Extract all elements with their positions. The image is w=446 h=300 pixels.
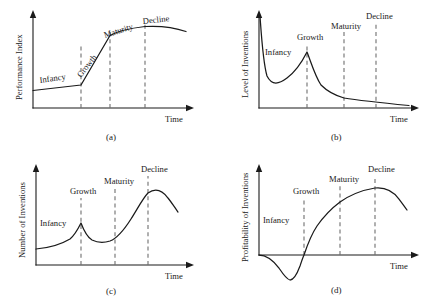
- stage-label-infancy-c: Infancy: [40, 218, 67, 228]
- x-axis-arrow-c: [186, 262, 194, 268]
- stage-label-maturity-a: Maturity: [103, 21, 135, 40]
- x-axis-label-d: Time: [390, 261, 408, 271]
- y-axis-label-b: Level of Inventions: [240, 30, 250, 98]
- panel-b: Level of Inventions Time Infancy Growth …: [223, 0, 446, 150]
- panel-a: Performance Index Time Infancy Growth Ma…: [0, 0, 223, 150]
- stage-label-decline-c: Decline: [141, 164, 168, 174]
- stage-label-decline-a: Decline: [142, 13, 170, 26]
- stage-label-infancy-b: Infancy: [265, 47, 292, 57]
- x-axis-arrow-a: [186, 105, 194, 111]
- stage-label-decline-d: Decline: [368, 164, 395, 174]
- figure-grid: Performance Index Time Infancy Growth Ma…: [0, 0, 446, 300]
- stage-label-maturity-c: Maturity: [104, 176, 135, 186]
- stage-label-growth-d: Growth: [293, 186, 320, 196]
- panel-caption-c: (c): [106, 286, 116, 296]
- y-axis-arrow-b: [256, 10, 262, 18]
- x-axis-label-c: Time: [165, 271, 183, 281]
- x-axis-label-a: Time: [165, 114, 183, 124]
- panel-caption-d: (d): [331, 285, 342, 295]
- panel-caption-b: (b): [331, 132, 342, 142]
- y-axis-label-a: Performance Index: [14, 34, 24, 100]
- y-axis-label-c: Number of Inventions: [17, 181, 27, 258]
- panel-c: Number of Inventions Time Infancy Growth…: [0, 150, 223, 300]
- x-axis-arrow-b: [411, 105, 419, 111]
- y-axis-label-d: Profitability of Inventions: [240, 172, 250, 262]
- stage-label-maturity-b: Maturity: [331, 21, 362, 31]
- profitability-curve-d: [259, 188, 407, 280]
- stage-label-growth-c: Growth: [70, 186, 97, 196]
- stage-label-growth-b: Growth: [297, 32, 324, 42]
- stage-label-infancy-d: Infancy: [263, 215, 290, 225]
- panel-caption-a: (a): [106, 132, 116, 142]
- y-axis-arrow-c: [33, 164, 39, 172]
- stage-label-infancy-a: Infancy: [39, 71, 67, 85]
- stage-label-maturity-d: Maturity: [329, 174, 360, 184]
- x-axis-arrow-d: [411, 252, 419, 258]
- y-axis-arrow-d: [256, 164, 262, 172]
- stage-label-decline-b: Decline: [366, 11, 393, 21]
- y-axis-arrow-a: [30, 10, 36, 18]
- panel-d: Profitability of Inventions Time Infancy…: [223, 150, 446, 300]
- x-axis-label-b: Time: [390, 114, 408, 124]
